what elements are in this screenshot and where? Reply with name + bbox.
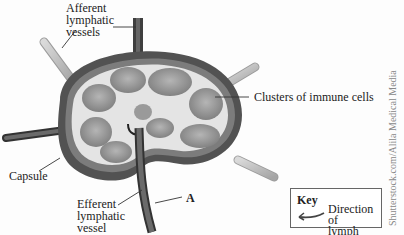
afferent-vessel-left [6,131,58,138]
key-description: Direction of lymph flow [328,204,381,235]
afferent-vessel-lower-right [238,160,274,177]
label-capsule: Capsule [9,170,48,182]
lymph-node-diagram: Afferent lymphatic vessels Clusters of i… [0,0,404,235]
afferent-vessel-top [133,18,143,55]
label-a: A [186,192,195,204]
afferent-vessel-upper-right [230,67,255,82]
label-afferent-lymphatic-vessels: Afferent lymphatic vessels [66,2,114,38]
lymph-node-body [58,51,242,180]
label-efferent-lymphatic-vessel: Efferent lymphatic vessel [77,198,125,234]
afferent-vessel-upper-left [44,42,72,80]
key-legend: Key Direction of lymph flow [290,188,382,228]
label-clusters-of-immune-cells: Clusters of immune cells [254,91,374,103]
curved-arrow-left-icon [295,209,325,223]
key-title: Key [297,193,318,208]
image-credit: Shutterstock.com/Alila Medical Media [387,70,398,226]
